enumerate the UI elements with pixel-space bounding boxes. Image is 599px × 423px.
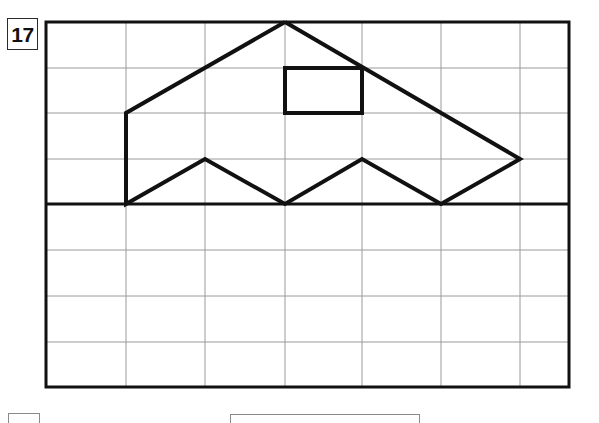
- worksheet-page: 17: [0, 0, 599, 423]
- grid-figure-canvas: [0, 0, 599, 423]
- inner-rectangle: [285, 68, 362, 113]
